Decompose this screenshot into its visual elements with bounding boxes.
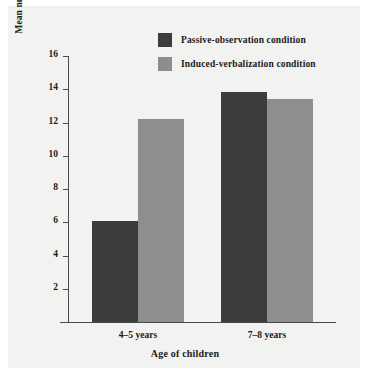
- bar-induced-verbalization-group-2: [267, 99, 313, 322]
- x-category-label-1: 4–5 years: [88, 330, 188, 340]
- y-axis-title-text: Mean number of responses correctly repro…: [14, 0, 24, 34]
- y-axis-line: [68, 56, 69, 322]
- x-category-label-2: 7–8 years: [217, 330, 317, 340]
- legend-item-passive-observation: Passive-observation condition: [158, 30, 358, 50]
- bar-induced-verbalization-group-1: [138, 119, 184, 322]
- y-tick-10: 10: [63, 156, 68, 157]
- y-tick-label-2: 2: [53, 282, 58, 292]
- y-tick-label-10: 10: [49, 149, 59, 159]
- x-axis-title: Age of children: [0, 348, 370, 359]
- legend-swatch-passive-observation: [158, 33, 172, 47]
- y-tick-14: 14: [63, 89, 68, 90]
- legend-label-passive-observation: Passive-observation condition: [181, 35, 306, 45]
- y-tick-label-4: 4: [53, 249, 58, 259]
- y-tick-2: 2: [63, 289, 68, 290]
- bar-passive-observation-group-2: [221, 92, 267, 322]
- y-tick-label-16: 16: [49, 49, 59, 59]
- y-tick-12: 12: [63, 123, 68, 124]
- figure-container: Passive-observation condition Induced-ve…: [0, 0, 370, 382]
- y-tick-label-12: 12: [49, 116, 59, 126]
- y-tick-6: 6: [63, 222, 68, 223]
- y-tick-16: 16: [63, 56, 68, 57]
- y-tick-label-8: 8: [53, 182, 58, 192]
- plot-area: 246810121416 4–5 years7–8 years: [68, 56, 330, 322]
- y-axis-title: Mean number of responses correctly repro…: [14, 0, 28, 62]
- y-tick-8: 8: [63, 189, 68, 190]
- y-tick-label-14: 14: [49, 82, 59, 92]
- y-tick-4: 4: [63, 256, 68, 257]
- bar-passive-observation-group-1: [92, 221, 138, 322]
- x-axis-line: [60, 322, 336, 323]
- y-tick-label-6: 6: [53, 215, 58, 225]
